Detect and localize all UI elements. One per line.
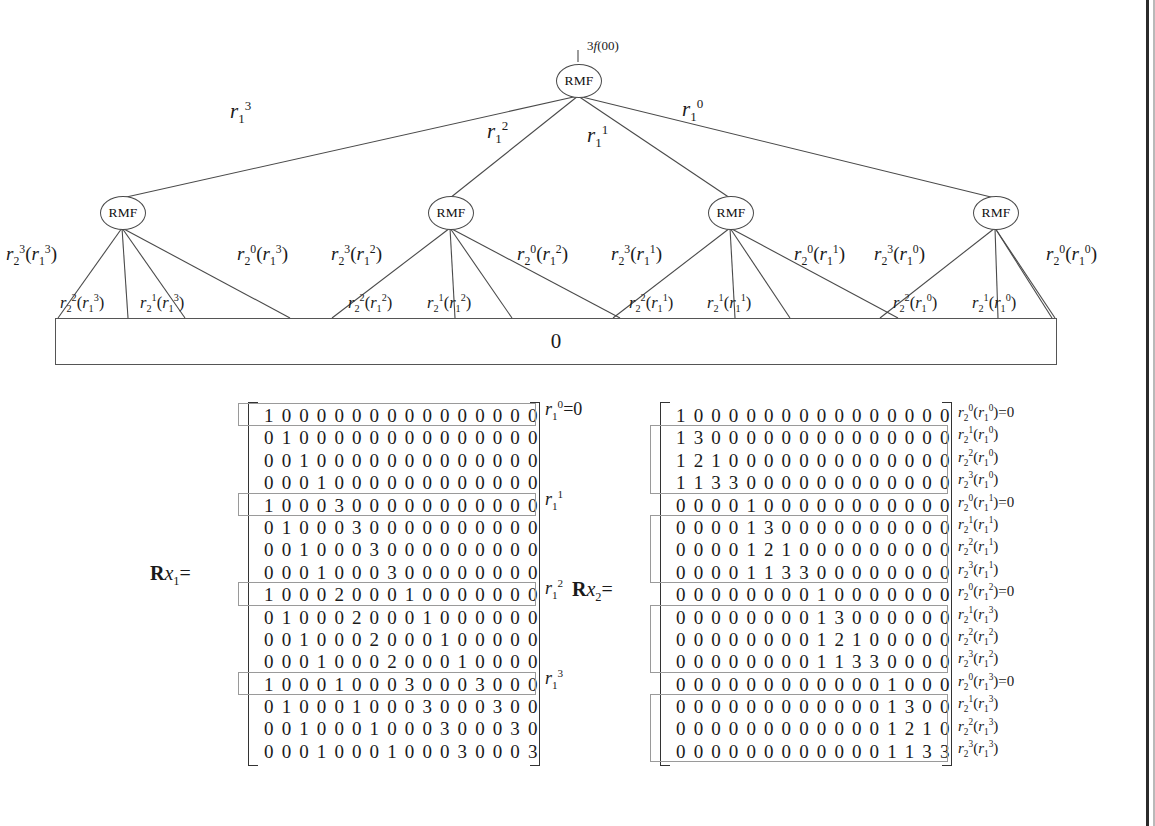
matrix-cell: 0	[813, 517, 831, 539]
matrix-cell: 0	[260, 696, 278, 718]
matrix-cell: 0	[295, 495, 313, 517]
matrix-cell: 0	[690, 651, 708, 673]
matrix-cell: 1	[383, 741, 401, 763]
matrix-cell: 1	[672, 427, 690, 449]
matrix-cell: 0	[795, 718, 813, 740]
matrix-cell: 1	[295, 718, 313, 740]
matrix-rx2-row-label: r22(r13)	[958, 717, 998, 737]
matrix-cell: 0	[830, 450, 848, 472]
matrix-cell: 0	[489, 629, 507, 651]
rmf-node-3[interactable]: RMF	[708, 196, 754, 230]
matrix-cell: 0	[348, 450, 366, 472]
matrix-cell: 0	[330, 651, 348, 673]
matrix-cell: 0	[866, 495, 884, 517]
matrix-cell: 0	[489, 405, 507, 427]
matrix-row: 0010002000100000	[260, 629, 542, 651]
matrix-rx1-name-eq: =	[180, 562, 191, 584]
matrix-cell: 0	[883, 539, 901, 561]
matrix-cell: 0	[725, 405, 743, 427]
matrix-rx2: Rx2= 10000000000000001300000000000000121…	[660, 402, 952, 764]
matrix-cell: 0	[918, 607, 936, 629]
matrix-cell: 0	[401, 651, 419, 673]
matrix-cell: 1	[883, 674, 901, 696]
matrix-cell: 0	[830, 718, 848, 740]
edge-label-g2-outer-left: r23(r12)	[331, 243, 382, 269]
matrix-cell: 1	[260, 674, 278, 696]
matrix-cell: 0	[883, 607, 901, 629]
matrix-rx2-row-label: r20(r13)=0	[958, 672, 1014, 692]
matrix-cell: 0	[489, 450, 507, 472]
matrix-cell: 0	[725, 607, 743, 629]
matrix-cell: 0	[918, 629, 936, 651]
matrix-cell: 0	[707, 718, 725, 740]
matrix-row: 0000000013000000	[672, 607, 954, 629]
matrix-cell: 3	[348, 517, 366, 539]
matrix-cell: 1	[348, 696, 366, 718]
matrix-cell: 0	[278, 674, 296, 696]
matrix-cell: 0	[348, 405, 366, 427]
matrix-cell: 0	[707, 495, 725, 517]
matrix-cell: 0	[813, 718, 831, 740]
matrix-cell: 0	[489, 539, 507, 561]
matrix-cell: 0	[778, 741, 796, 763]
matrix-cell: 0	[383, 718, 401, 740]
matrix-cell: 0	[524, 674, 542, 696]
matrix-cell: 0	[436, 405, 454, 427]
rmf-node-4[interactable]: RMF	[973, 196, 1019, 230]
matrix-cell: 0	[742, 696, 760, 718]
matrix-cell: 0	[260, 718, 278, 740]
matrix-cell: 0	[813, 427, 831, 449]
matrix-cell: 0	[918, 450, 936, 472]
matrix-cell: 0	[866, 741, 884, 763]
matrix-cell: 3	[471, 674, 489, 696]
matrix-cell: 0	[883, 562, 901, 584]
matrix-cell: 0	[278, 651, 296, 673]
matrix-cell: 3	[330, 495, 348, 517]
matrix-cell: 0	[742, 472, 760, 494]
matrix-row: 0000000011330000	[672, 651, 954, 673]
matrix-cell: 0	[690, 718, 708, 740]
matrix-cell: 0	[383, 427, 401, 449]
matrix-cell: 0	[901, 674, 919, 696]
rmf-node-root[interactable]: RMF	[556, 64, 602, 98]
matrix-cell: 3	[454, 741, 472, 763]
matrix-cell: 0	[506, 495, 524, 517]
matrix-cell: 0	[506, 472, 524, 494]
matrix-cell: 0	[401, 517, 419, 539]
matrix-cell: 0	[848, 427, 866, 449]
matrix-cell: 0	[471, 562, 489, 584]
matrix-row: 1210000000000000	[672, 450, 954, 472]
matrix-cell: 0	[506, 651, 524, 673]
matrix-cell: 0	[795, 472, 813, 494]
matrix-cell: 0	[936, 450, 954, 472]
rmf-node-2[interactable]: RMF	[428, 196, 474, 230]
matrix-cell: 0	[742, 405, 760, 427]
rmf-node-1[interactable]: RMF	[100, 196, 146, 230]
matrix-cell: 0	[848, 607, 866, 629]
matrix-cell: 0	[418, 427, 436, 449]
matrix-cell: 0	[778, 607, 796, 629]
matrix-cell: 0	[260, 427, 278, 449]
matrix-cell: 0	[401, 495, 419, 517]
matrix-row: 0100010003000300	[260, 696, 542, 718]
matrix-rx1: Rx1= 10000000000000000100000000000000001…	[248, 402, 540, 764]
matrix-cell: 0	[383, 674, 401, 696]
matrix-cell: 0	[813, 495, 831, 517]
matrix-cell: 3	[830, 607, 848, 629]
matrix-cell: 1	[418, 607, 436, 629]
matrix-cell: 0	[348, 495, 366, 517]
matrix-cell: 0	[401, 607, 419, 629]
matrix-row: 1000000000000000	[260, 405, 542, 427]
matrix-cell: 1	[313, 651, 331, 673]
matrix-cell: 0	[866, 562, 884, 584]
matrix-cell: 0	[295, 405, 313, 427]
matrix-cell: 0	[742, 450, 760, 472]
matrix-cell: 0	[313, 718, 331, 740]
matrix-cell: 3	[418, 696, 436, 718]
matrix-cell: 3	[383, 562, 401, 584]
matrix-cell: 2	[348, 607, 366, 629]
matrix-cell: 1	[883, 741, 901, 763]
matrix-cell: 0	[901, 607, 919, 629]
matrix-cell: 3	[366, 539, 384, 561]
matrix-cell: 0	[813, 539, 831, 561]
